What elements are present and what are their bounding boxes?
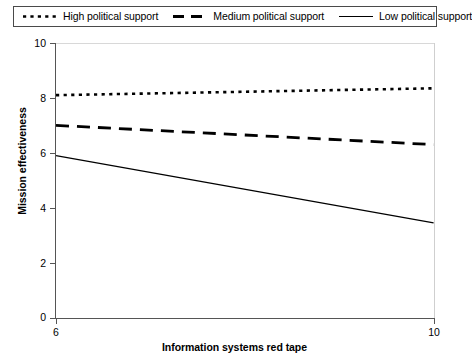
series-line-low [56, 156, 434, 223]
series-line-high [56, 88, 434, 95]
series-line-medium [56, 125, 434, 144]
